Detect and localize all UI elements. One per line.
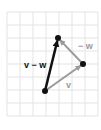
vector-diagram — [0, 0, 101, 130]
label-v: v — [66, 81, 71, 90]
point-v-tip — [80, 61, 86, 67]
label-negative-w: − w — [78, 42, 93, 51]
point-origin — [42, 88, 48, 94]
label-v-minus-w: v − w — [24, 61, 46, 70]
point-top — [55, 35, 61, 41]
